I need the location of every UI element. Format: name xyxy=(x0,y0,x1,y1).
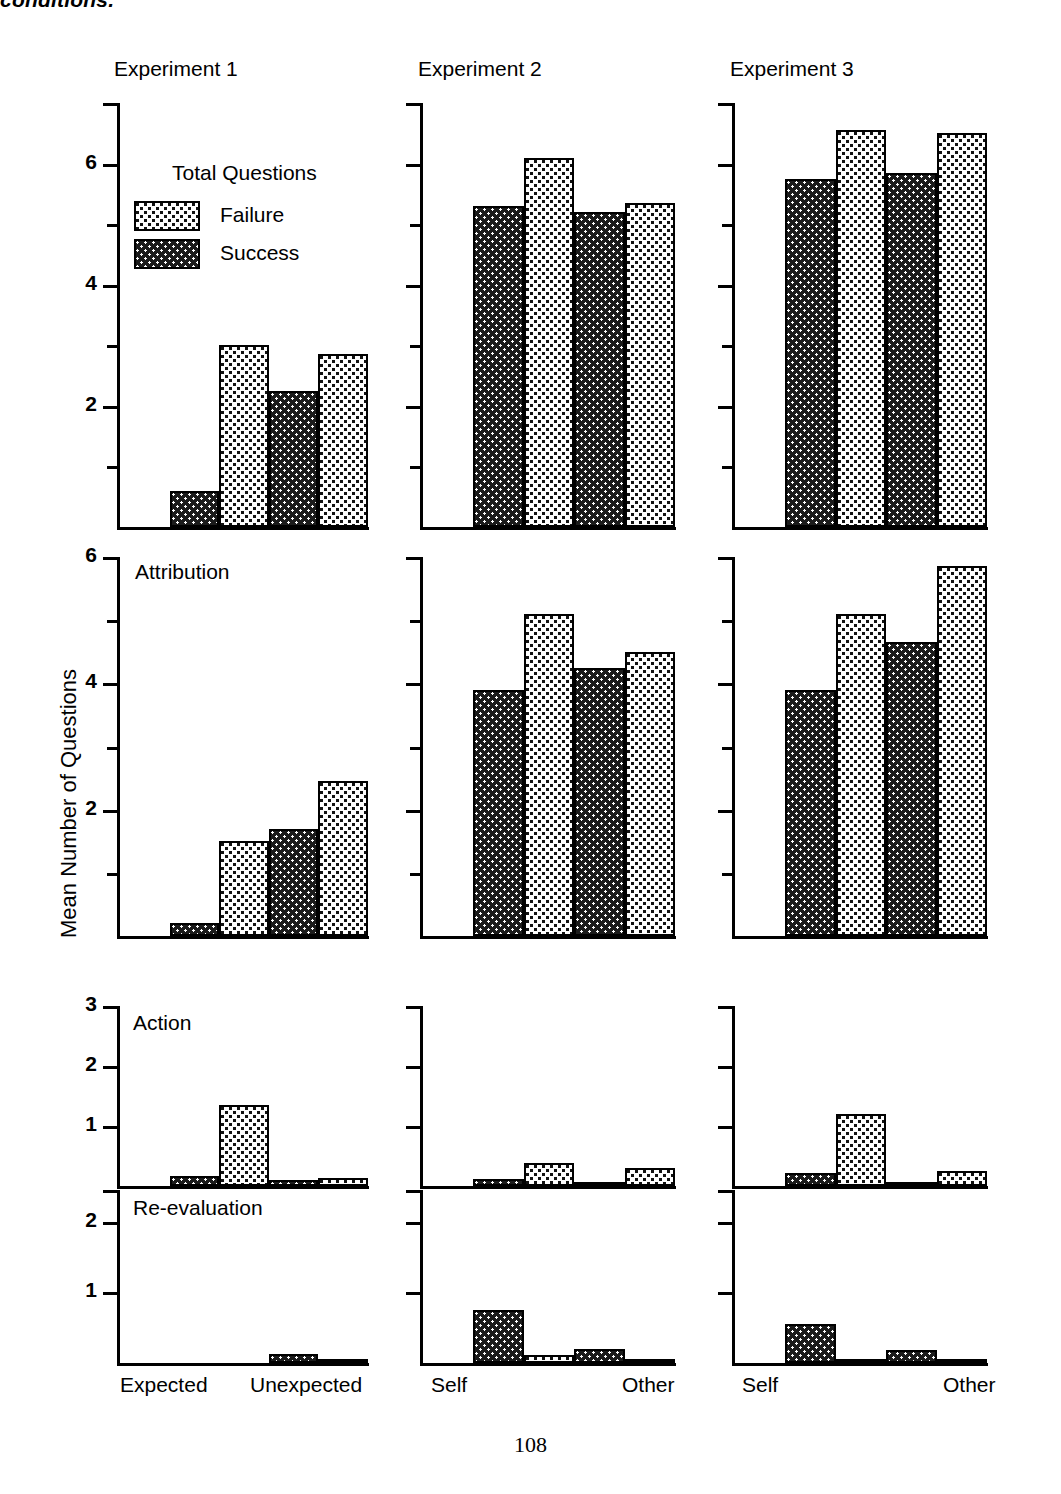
y-tick-major-1 xyxy=(406,1126,421,1129)
y-axis-line xyxy=(420,1190,423,1366)
bar-failure-expected xyxy=(219,345,269,527)
bar-success-other xyxy=(886,1350,936,1363)
y-tick-major-6 xyxy=(103,557,118,560)
plot-row3-col2 xyxy=(420,1006,676,1189)
bar-success-self xyxy=(785,690,835,936)
y-tick-major-2 xyxy=(406,1066,421,1069)
bar-success-self xyxy=(473,1179,523,1186)
bar-failure-other xyxy=(937,566,987,936)
x-label-exp3-self: Self xyxy=(742,1373,778,1397)
y-tick-label-3: 3 xyxy=(57,993,97,1014)
bar-success-other xyxy=(886,642,936,936)
bar-failure-expected xyxy=(219,841,269,936)
y-tick-major-2 xyxy=(103,1066,118,1069)
bar-success-unexpected xyxy=(269,1354,319,1363)
plot-row4-col3 xyxy=(732,1190,988,1366)
y-tick-major-6 xyxy=(718,164,733,167)
y-axis-line xyxy=(117,1006,120,1189)
y-tick-major-2 xyxy=(103,1222,118,1225)
page-number: 108 xyxy=(0,1432,1061,1458)
y-tick-label-6: 6 xyxy=(57,151,97,172)
y-tick-major-6 xyxy=(406,164,421,167)
plot-row2-col3 xyxy=(732,557,988,939)
x-axis-line xyxy=(117,1186,369,1189)
bar-success-self xyxy=(473,206,523,527)
bar-failure-unexpected xyxy=(318,1178,368,1186)
y-tick-minor-1 xyxy=(722,873,733,876)
y-tick-label-4: 4 xyxy=(57,670,97,691)
plot-row2-col2 xyxy=(420,557,676,939)
bar-success-other xyxy=(886,173,936,527)
y-axis-top-cap xyxy=(103,1190,118,1193)
y-tick-label-2: 2 xyxy=(57,797,97,818)
bar-failure-self xyxy=(836,1114,886,1186)
bar-success-other xyxy=(574,212,624,527)
x-label-exp3-other: Other xyxy=(943,1373,996,1397)
y-tick-major-3 xyxy=(103,1006,118,1009)
y-tick-label-2: 2 xyxy=(57,393,97,414)
x-axis-line xyxy=(420,1186,676,1189)
y-tick-major-4 xyxy=(718,285,733,288)
bar-failure-other xyxy=(625,203,675,527)
y-axis-line xyxy=(117,1190,120,1366)
y-tick-minor-3 xyxy=(722,747,733,750)
y-tick-major-1 xyxy=(103,1292,118,1295)
bar-success-self xyxy=(473,690,523,936)
y-axis-top-cap xyxy=(406,103,421,106)
bar-failure-unexpected xyxy=(318,781,368,936)
plot-row4-col2 xyxy=(420,1190,676,1366)
y-tick-major-2 xyxy=(406,1222,421,1225)
y-tick-major-1 xyxy=(718,1126,733,1129)
plot-row1-col2 xyxy=(420,103,676,530)
bar-success-self xyxy=(785,1173,835,1186)
x-axis-line xyxy=(732,1186,988,1189)
y-tick-minor-3 xyxy=(410,345,421,348)
bar-success-self xyxy=(473,1310,523,1363)
bar-failure-self xyxy=(836,130,886,527)
column-title-experiment-2: Experiment 2 xyxy=(418,57,542,81)
plot-row3-col1: 123 xyxy=(117,1006,369,1189)
bar-success-unexpected xyxy=(269,1180,319,1186)
y-tick-major-2 xyxy=(718,406,733,409)
y-tick-major-2 xyxy=(718,1066,733,1069)
y-tick-minor-1 xyxy=(410,873,421,876)
y-axis-line xyxy=(732,1190,735,1366)
bar-success-expected xyxy=(170,923,220,936)
y-tick-minor-3 xyxy=(107,747,118,750)
bar-failure-self xyxy=(836,1359,886,1363)
bar-failure-other xyxy=(937,1359,987,1363)
bar-success-self xyxy=(785,179,835,527)
bar-success-self xyxy=(785,1324,835,1363)
y-tick-major-1 xyxy=(718,1292,733,1295)
bar-success-other xyxy=(574,668,624,936)
y-axis-top-cap xyxy=(718,1190,733,1193)
bar-success-other xyxy=(574,1349,624,1363)
y-axis-top-cap xyxy=(103,103,118,106)
x-axis-line xyxy=(732,936,988,939)
y-tick-major-6 xyxy=(406,557,421,560)
y-tick-label-4: 4 xyxy=(57,272,97,293)
column-title-experiment-1: Experiment 1 xyxy=(114,57,238,81)
x-label-exp1-unexpected: Unexpected xyxy=(250,1373,362,1397)
y-axis-line xyxy=(420,1006,423,1189)
plot-row4-col1: 12 xyxy=(117,1190,369,1366)
x-axis-line xyxy=(117,1363,369,1366)
bar-failure-other xyxy=(937,133,987,527)
y-tick-minor-1 xyxy=(410,466,421,469)
y-tick-major-1 xyxy=(103,1126,118,1129)
y-tick-label-2: 2 xyxy=(57,1209,97,1230)
y-tick-minor-3 xyxy=(107,345,118,348)
bar-failure-self xyxy=(524,158,574,527)
y-tick-major-4 xyxy=(103,285,118,288)
y-tick-minor-5 xyxy=(107,224,118,227)
y-tick-major-4 xyxy=(718,683,733,686)
plot-row1-col3 xyxy=(732,103,988,530)
y-tick-minor-5 xyxy=(722,224,733,227)
y-axis-top-cap xyxy=(406,1190,421,1193)
bar-failure-other xyxy=(625,1359,675,1363)
bar-success-other xyxy=(886,1182,936,1186)
y-tick-major-2 xyxy=(103,810,118,813)
y-tick-major-2 xyxy=(103,406,118,409)
x-axis-line xyxy=(732,1363,988,1366)
y-tick-major-4 xyxy=(103,683,118,686)
